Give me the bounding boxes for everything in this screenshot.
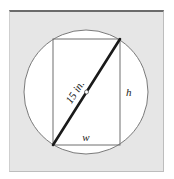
inscribed-rectangle-diagram: 15 in. h w bbox=[0, 0, 174, 179]
center-point bbox=[85, 90, 89, 94]
height-label: h bbox=[126, 86, 132, 98]
width-label: w bbox=[82, 131, 90, 143]
